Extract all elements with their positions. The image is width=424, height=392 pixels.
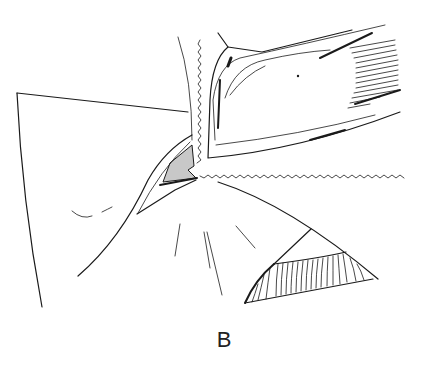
radiating-lines bbox=[175, 224, 255, 295]
shaded-triangle-region bbox=[163, 145, 196, 182]
dashed-curve bbox=[72, 207, 112, 217]
left-flap bbox=[17, 93, 188, 307]
central-curve-line bbox=[178, 37, 192, 140]
figure-label: B bbox=[210, 329, 238, 351]
figure-canvas: B bbox=[0, 0, 424, 392]
horizontal-zigzag-incision bbox=[200, 175, 404, 178]
upper-right-flap bbox=[208, 25, 400, 158]
hatched-triangle bbox=[245, 229, 373, 303]
vertical-zigzag-incision bbox=[197, 40, 201, 163]
